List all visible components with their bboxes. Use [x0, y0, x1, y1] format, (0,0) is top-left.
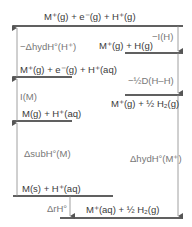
step-reaction-label: ΔrH° — [47, 203, 67, 214]
level-left-3-label: M(g) + H⁺(aq) — [22, 108, 81, 119]
level-left-4-label: M(s) + H⁺(aq) — [22, 183, 81, 194]
level-left-2-label: M⁺(g) + e⁻(g) + H⁺(aq) — [20, 64, 117, 75]
step-hydration-M-label: ΔhydH°(M⁺) — [130, 153, 182, 164]
level-right-2-label: M⁺(g) + H(g) — [99, 40, 153, 51]
step-ionization-M-label: I(M) — [20, 91, 37, 102]
step-half-dissociation-label: −½D(H–H) — [128, 75, 174, 86]
step-neg-hyd-H-label: −ΔhydH°(H⁺) — [20, 41, 76, 52]
level-top-label: M⁺(g) + e⁻(g) + H⁺(g) — [44, 11, 136, 22]
step-sublimation-M-label: ΔsubH°(M) — [24, 148, 71, 159]
level-right-3-label: M⁺(g) + ½ H₂(g) — [111, 98, 179, 109]
level-bottom-label: M⁺(aq) + ½ H₂(g) — [86, 204, 159, 215]
step-neg-ionization-H-label: −I(H) — [152, 31, 173, 42]
